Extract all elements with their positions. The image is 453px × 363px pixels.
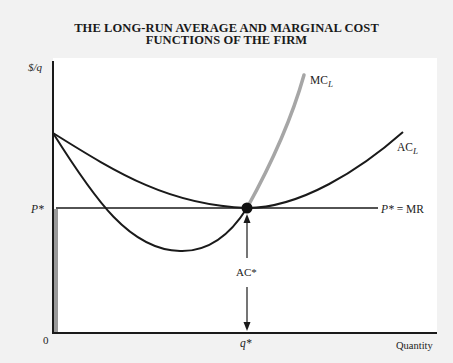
ac-star-label: AC* [236,266,257,278]
x-tick-qstar: q* [240,337,252,350]
origin-label: 0 [43,334,49,346]
price-mr-label: P* = MR [380,203,424,215]
x-axis-label: Quantity [396,340,433,351]
equilibrium-point [242,203,253,214]
plot-area [53,58,437,333]
chart-plot: $/q P* 0 q* Quantity AC* MCL ACL P* = MR [0,0,453,363]
y-tick-pstar: P* [30,203,44,215]
y-axis-label: $/q [28,61,43,73]
